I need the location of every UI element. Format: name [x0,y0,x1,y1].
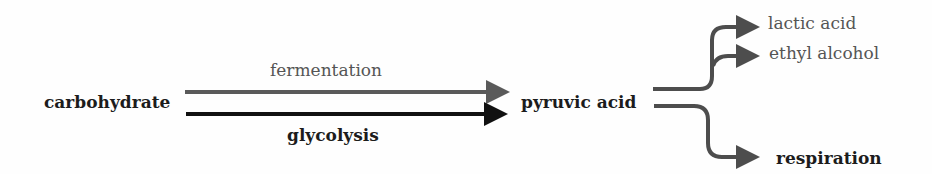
respiration-label: respiration [776,150,882,167]
pyruvic-acid-label: pyruvic acid [521,94,636,111]
respiration-branch [654,106,756,157]
fermentation-label: fermentation [270,62,382,79]
ethyl-alcohol-branch [713,56,756,66]
diagram-canvas: carbohydrate fermentation glycolysis pyr… [0,0,932,174]
carbohydrate-label: carbohydrate [44,94,170,111]
lactic-acid-label: lactic acid [768,15,856,32]
glycolysis-label: glycolysis [287,127,379,144]
ethyl-alcohol-label: ethyl alcohol [769,45,879,62]
